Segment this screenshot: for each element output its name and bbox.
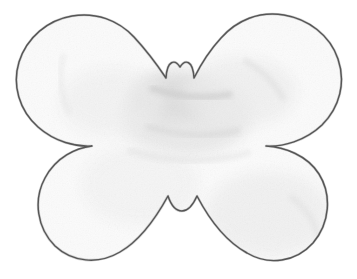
image-canvas: Hand-drawn pencil outline of a butterfly… xyxy=(0,0,357,279)
butterfly-drawing: Hand-drawn pencil outline of a butterfly… xyxy=(0,0,357,279)
